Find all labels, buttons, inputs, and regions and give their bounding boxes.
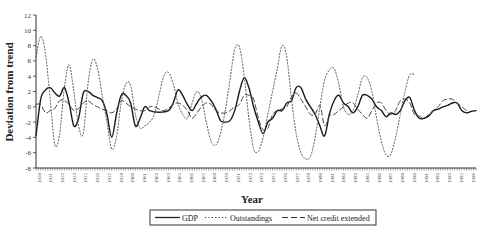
x-tick-label: 1952	[60, 173, 65, 184]
legend-net-credit-label: Net credit extended	[307, 214, 370, 223]
x-tick-label: 1963	[166, 173, 171, 184]
x-tick-label: 1967	[201, 173, 206, 184]
y-tick-label: -6	[25, 149, 31, 157]
y-tick-label: 4	[28, 73, 32, 81]
y-tick-label: 10	[24, 27, 32, 35]
y-tick-label: -4	[25, 134, 31, 142]
y-tick-label: 6	[28, 57, 32, 65]
x-tick-label: 1978	[306, 173, 311, 184]
x-tick-label: 1980	[318, 173, 323, 184]
x-tick-label: 1977	[295, 173, 300, 184]
x-tick-label: 1951	[48, 173, 53, 184]
x-tick-label: 1990	[412, 173, 417, 184]
x-tick-label: 1958	[119, 173, 124, 184]
x-tick-label: 1985	[365, 173, 370, 184]
x-tick-label: 1961	[142, 173, 147, 184]
x-tick-label: 1960	[130, 173, 135, 184]
legend-outstandings-label: Outstandings	[230, 214, 272, 223]
y-tick-label: -2	[25, 119, 31, 127]
x-tick-label: 1955	[83, 173, 88, 184]
y-tick-label: 8	[28, 42, 32, 50]
series-line-outstandings	[36, 36, 415, 159]
x-tick-label: 1962	[154, 173, 159, 184]
plot-series	[36, 36, 476, 159]
x-tick-label: 1991	[424, 173, 429, 184]
x-axis-title: Year	[241, 193, 263, 205]
x-tick-label: 1983	[353, 173, 358, 184]
x-tick-label: 1982	[341, 173, 346, 184]
x-tick-label: 1953	[72, 173, 77, 184]
x-tick-label: 1992	[435, 173, 440, 184]
x-axis: 1950195119521953195519561957195819601961…	[36, 168, 476, 183]
x-tick-label: 1995	[459, 173, 464, 184]
x-tick-label: 1971	[236, 173, 241, 184]
x-tick-label: 1976	[283, 173, 288, 184]
y-axis-title: Deviation from trend	[3, 42, 15, 141]
legend: GDP Outstandings Net credit extended	[150, 210, 376, 225]
x-tick-label: 1996	[471, 173, 476, 184]
y-axis: -8-6-4-2024681012	[24, 12, 36, 173]
x-tick-label: 1965	[177, 173, 182, 184]
y-tick-label: -8	[25, 165, 31, 173]
y-tick-label: 2	[28, 88, 32, 96]
x-tick-label: 1988	[400, 173, 405, 184]
x-tick-label: 1981	[330, 173, 335, 184]
legend-gdp-label: GDP	[182, 214, 199, 223]
x-tick-label: 1970	[224, 173, 229, 184]
x-tick-label: 1986	[377, 173, 382, 184]
x-tick-label: 1975	[271, 173, 276, 184]
x-tick-label: 1950	[37, 173, 42, 184]
line-chart: -8-6-4-2024681012 1950195119521953195519…	[0, 0, 485, 240]
x-tick-label: 1966	[189, 173, 194, 184]
x-tick-label: 1968	[212, 173, 217, 184]
x-tick-label: 1987	[388, 173, 393, 184]
y-tick-label: 12	[24, 12, 32, 20]
x-tick-label: 1972	[248, 173, 253, 184]
x-tick-label: 1993	[447, 173, 452, 184]
y-tick-label: 0	[28, 103, 32, 111]
x-tick-label: 1973	[259, 173, 264, 184]
x-tick-label: 1956	[95, 173, 100, 184]
x-tick-label: 1957	[107, 173, 112, 184]
